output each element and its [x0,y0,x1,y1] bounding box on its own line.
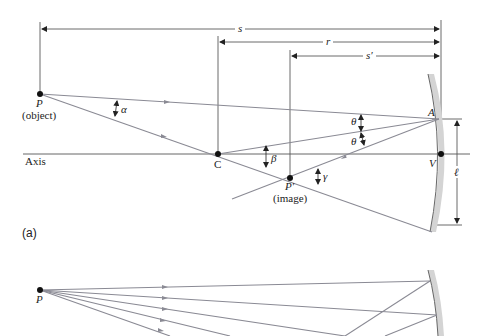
alpha-label: α [121,103,127,115]
axis-label: Axis [25,155,46,167]
dimension-lines [40,20,462,225]
vertex-symbol: V [429,157,436,169]
ell-label: ℓ [451,166,462,178]
object-caption: (object) [22,109,56,121]
normal-c-to-a [218,119,439,154]
panel-a-label: (a) [22,226,37,240]
mirror-point-symbol: A [428,106,435,118]
theta-2-label: θ [351,135,356,147]
object-symbol-b: P [36,293,43,305]
center-symbol: C [214,158,221,170]
image-symbol: P′ [285,180,294,192]
s-prime-label: s′ [363,49,376,61]
beta-label: β [271,152,276,164]
concave-mirror-b [428,270,444,336]
vertex-point [438,151,444,157]
object-symbol: P [36,97,43,109]
r-label: r [323,35,333,47]
theta-1-label: θ [351,115,356,127]
spherical-mirror-diagram [0,0,479,336]
center-point [215,151,221,157]
reflected-ray [232,119,439,199]
s-label: s [235,22,245,34]
image-caption: (image) [273,192,307,204]
rays-a [40,94,439,232]
rays-b [40,281,437,336]
gamma-label: γ [323,170,327,182]
